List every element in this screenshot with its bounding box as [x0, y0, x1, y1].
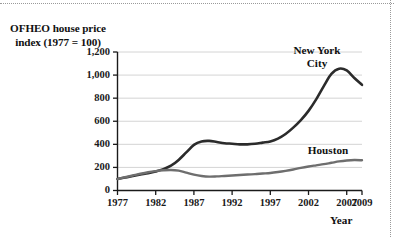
x-tick-label: 1982 — [136, 197, 176, 208]
x-tick-label: 1992 — [212, 197, 252, 208]
series-label-houston: Houston — [300, 144, 356, 157]
y-tick-label: 200 — [62, 161, 110, 172]
series-line-houston — [118, 160, 363, 179]
series-label-new-york-city: New York City — [286, 44, 348, 70]
y-tick-label: 800 — [62, 92, 110, 103]
x-tick-label: 2002 — [289, 197, 329, 208]
chart-figure: OFHEO house price index (1977 = 100) 020… — [0, 0, 394, 237]
x-tick-label: 2009 — [342, 197, 382, 208]
x-tick-label: 1987 — [174, 197, 214, 208]
y-tick-label: 0 — [62, 184, 110, 195]
y-tick-label: 1,000 — [62, 69, 110, 80]
series-line-new-york-city — [118, 69, 363, 179]
x-tick-label: 1997 — [250, 197, 290, 208]
series-label-new-york-city-line-1: New York — [286, 44, 348, 57]
y-tick-label: 1,200 — [62, 46, 110, 57]
y-tick-label: 600 — [62, 115, 110, 126]
x-axis-title: Year — [330, 214, 352, 226]
y-tick-label: 400 — [62, 138, 110, 149]
x-tick-label: 1977 — [98, 197, 138, 208]
series-label-new-york-city-line-2: City — [286, 57, 348, 70]
